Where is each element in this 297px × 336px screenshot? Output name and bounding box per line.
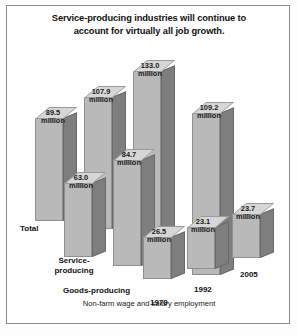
- series-label-goods-producing: Goods-producing: [63, 286, 130, 296]
- bar-service-1979: [64, 183, 92, 257]
- value-unit: million: [41, 116, 65, 125]
- value-unit: million: [197, 111, 221, 120]
- bar-front-face: [113, 160, 141, 266]
- value-unit: million: [236, 212, 260, 221]
- bar-total-1979: [35, 118, 63, 221]
- chart-footnote: Non-farm wage and salary employment: [18, 299, 280, 308]
- value-label-total-1992: 107.9 million: [82, 88, 120, 105]
- value-unit: million: [117, 158, 141, 167]
- bar-front-face: [35, 118, 63, 221]
- value-label-goods-1992: 23.1 million: [186, 218, 220, 235]
- value-label-goods-2005: 23.7 million: [231, 205, 265, 222]
- value-unit: million: [147, 235, 171, 244]
- series-label-total: Total: [20, 224, 39, 234]
- value-label-service-2005: 109.2 million: [190, 104, 228, 121]
- series-label-line-1: Service-: [58, 256, 89, 265]
- chart-figure: Service-producing industries will contin…: [0, 0, 297, 336]
- plot-area: 89.5 million 107.9 million 133.0 million: [6, 5, 290, 324]
- value-unit: million: [138, 69, 162, 78]
- category-label-1992: 1992: [194, 285, 212, 294]
- bar-service-1992: [113, 160, 141, 266]
- bar-side-face: [161, 65, 175, 237]
- value-label-goods-1979: 26.5 million: [142, 228, 176, 245]
- series-label-service-producing: Service- producing: [43, 256, 105, 275]
- value-unit: million: [191, 225, 215, 234]
- series-label-line-2: producing: [54, 266, 93, 275]
- value-label-service-1979: 63.0 million: [64, 174, 98, 191]
- value-label-total-2005: 133.0 million: [131, 62, 169, 79]
- value-label-service-1992: 84.7 million: [112, 151, 146, 168]
- value-unit: million: [69, 181, 93, 190]
- category-label-2005: 2005: [240, 270, 258, 279]
- value-unit: million: [89, 95, 113, 104]
- bar-front-face: [64, 183, 92, 257]
- value-label-total-1979: 89.5 million: [36, 109, 70, 126]
